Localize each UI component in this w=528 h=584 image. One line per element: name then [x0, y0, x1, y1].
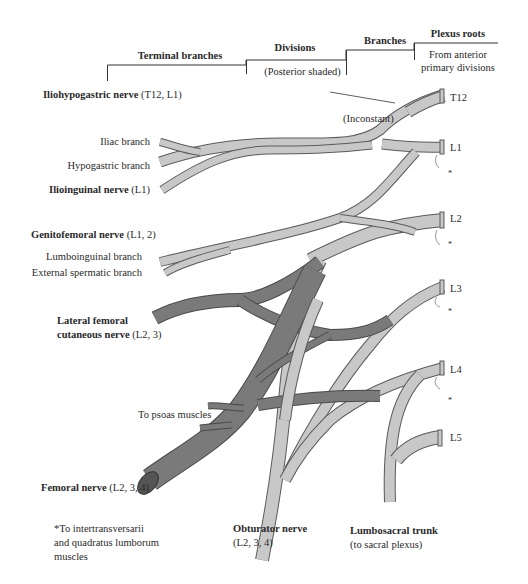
label-lumbosacral-note: (to sacral plexus)	[350, 538, 422, 551]
label-obturator: Obturator nerve	[233, 522, 307, 535]
plexus-roots-note-2: primary divisions	[418, 61, 498, 74]
label-genitofemoral: Genitofemoral nerve (L1, 2)	[31, 228, 156, 241]
label-inconstant: (Inconstant)	[343, 112, 394, 125]
label-obturator-roots: (L2, 3, 4)	[233, 536, 273, 549]
label-hypogastric-branch: Hypogastric branch	[40, 159, 150, 172]
asterisk-l2: *	[448, 238, 452, 251]
root-l4: L4	[450, 363, 462, 376]
label-iliac-branch: Iliac branch	[40, 135, 150, 148]
header-plexus-roots: Plexus roots	[418, 27, 498, 40]
label-ilioinguinal: Ilioinguinal nerve (L1)	[20, 183, 150, 196]
root-l1: L1	[450, 141, 462, 154]
label-lumboinguinal: Lumboinguinal branch	[20, 250, 142, 263]
t12-root	[408, 96, 444, 112]
l1-root	[382, 144, 443, 147]
label-lateral-femoral-1: Lateral femoral	[57, 314, 128, 327]
root-l3: L3	[450, 282, 462, 295]
root-t12: T12	[450, 91, 467, 104]
posterior-divisions	[134, 262, 390, 498]
l5-root	[396, 437, 440, 460]
asterisk-l3: *	[448, 305, 452, 318]
label-iliohypogastric: Iliohypogastric nerve (T12, L1)	[43, 88, 182, 101]
root-l5: L5	[450, 431, 462, 444]
label-to-psoas: To psoas muscles	[138, 408, 211, 421]
footnote-1: *To intertransversarii	[54, 522, 144, 535]
lateral-femoral-cutaneous-nerve	[155, 262, 390, 335]
asterisk-l1: *	[448, 167, 452, 180]
plexus-roots-note-1: From anterior	[418, 48, 498, 61]
header-terminal-branches: Terminal branches	[120, 49, 240, 62]
divisions-note: (Posterior shaded)	[255, 65, 350, 78]
label-lateral-femoral-2: cutaneous nerve (L2, 3)	[57, 328, 161, 341]
header-branches: Branches	[355, 34, 415, 47]
root-l2: L2	[450, 212, 462, 225]
label-femoral: Femoral nerve (L2, 3, 4)	[41, 481, 149, 494]
footnote-3: muscles	[54, 550, 88, 563]
asterisk-l4: *	[448, 394, 452, 407]
label-lumbosacral: Lumbosacral trunk	[350, 524, 438, 537]
footnote-2: and quadratus lumborum	[54, 536, 159, 549]
header-divisions: Divisions	[255, 41, 335, 54]
label-external-spermatic: External spermatic branch	[20, 266, 142, 279]
